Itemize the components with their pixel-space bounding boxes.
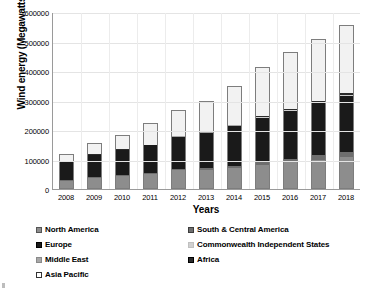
legend-label: Middle East: [45, 255, 88, 264]
gridline-vertical: [333, 13, 334, 189]
x-tick-label: 2017: [310, 193, 326, 202]
legend-item[interactable]: North America: [36, 222, 186, 237]
legend-swatch-icon: [188, 257, 194, 263]
legend-label: Asia Pacific: [45, 270, 89, 279]
stacked-bar[interactable]: [171, 110, 186, 189]
legend-item[interactable]: Europe: [36, 237, 186, 252]
legend-label: Europe: [45, 240, 72, 249]
bar-segment-north-america: [144, 174, 157, 188]
stacked-bar[interactable]: [339, 25, 354, 189]
gridline-vertical: [81, 13, 82, 189]
gridline-vertical: [137, 13, 138, 189]
gridline-horizontal: [53, 72, 360, 73]
axes-frame: [52, 13, 360, 190]
gridline-horizontal: [53, 161, 360, 162]
gridline-vertical: [305, 13, 306, 189]
legend-column-right: South & Central AmericaCommonwealth Inde…: [188, 222, 363, 267]
x-tick-label: 2015: [254, 193, 270, 202]
y-tick-label: 0: [5, 186, 49, 195]
bar-segment-asia-pacific: [256, 68, 269, 117]
x-tick-label: 2016: [282, 193, 298, 202]
legend-swatch-icon: [188, 242, 194, 248]
bar-segment-asia-pacific: [312, 40, 325, 101]
stacked-bar[interactable]: [199, 101, 214, 189]
gridline-vertical: [249, 13, 250, 189]
legend-item[interactable]: Middle East: [36, 252, 186, 267]
bar-segment-north-america: [228, 168, 241, 188]
bar-segment-europe: [200, 133, 213, 169]
bar-segment-europe: [312, 103, 325, 156]
bar-segment-asia-pacific: [116, 136, 129, 150]
gridline-horizontal: [53, 13, 360, 14]
bar-segment-north-america: [60, 181, 73, 188]
legend-swatch-icon: [36, 272, 42, 278]
bar-segment-north-america: [256, 165, 269, 188]
corner-artifact: [2, 283, 5, 288]
bar-segment-europe: [60, 161, 73, 180]
gridline-vertical: [193, 13, 194, 189]
legend-item[interactable]: Asia Pacific: [36, 267, 186, 282]
y-tick-label: 200000: [5, 127, 49, 136]
x-tick-label: 2009: [86, 193, 102, 202]
bar-segment-asia-pacific: [144, 124, 157, 145]
bar-segment-europe: [144, 145, 157, 173]
x-tick-label: 2010: [114, 193, 130, 202]
legend-label: Commonwealth Independent States: [197, 240, 329, 249]
legend-swatch-icon: [36, 257, 42, 263]
bar-segment-europe: [340, 96, 353, 152]
plot-area: Wind energy (Megawatts) 0100000200000300…: [0, 0, 368, 200]
legend-item[interactable]: South & Central America: [188, 222, 363, 237]
bar-segment-asia-pacific: [284, 53, 297, 108]
x-tick-label: 2014: [226, 193, 242, 202]
legend-column-left: North AmericaEuropeMiddle EastAsia Pacif…: [36, 222, 186, 282]
bar-segment-north-america: [88, 178, 101, 189]
y-tick-label: 100000: [5, 156, 49, 165]
x-tick-label: 2008: [58, 193, 74, 202]
bar-segment-asia-pacific: [340, 26, 353, 94]
legend-label: North America: [45, 225, 99, 234]
y-tick-label: 600000: [5, 9, 49, 18]
y-axis-tick-labels: 0100000200000300000400000500000600000: [5, 0, 49, 200]
bar-segment-asia-pacific: [88, 144, 101, 154]
x-axis-title: Years: [52, 204, 360, 215]
bar-segment-europe: [172, 137, 185, 169]
legend-label: South & Central America: [197, 225, 289, 234]
y-tick-label: 300000: [5, 97, 49, 106]
stacked-bar[interactable]: [255, 67, 270, 189]
legend-label: Africa: [197, 255, 219, 264]
bar-segment-north-america: [340, 157, 353, 188]
gridline-vertical: [277, 13, 278, 189]
bar-segment-asia-pacific: [200, 102, 213, 132]
stacked-bar[interactable]: [59, 154, 74, 189]
y-tick-label: 400000: [5, 68, 49, 77]
gridline-horizontal: [53, 102, 360, 103]
bar-segment-asia-pacific: [172, 111, 185, 136]
gridline-vertical: [165, 13, 166, 189]
gridline-vertical: [109, 13, 110, 189]
legend-swatch-icon: [36, 242, 42, 248]
bar-segment-europe: [284, 111, 297, 159]
legend-swatch-icon: [188, 227, 194, 233]
legend-item[interactable]: Africa: [188, 252, 363, 267]
legend-item[interactable]: Commonwealth Independent States: [188, 237, 363, 252]
bar-segment-north-america: [200, 170, 213, 188]
bar-segment-north-america: [284, 162, 297, 188]
stacked-bar[interactable]: [311, 39, 326, 189]
bar-segment-asia-pacific: [228, 87, 241, 124]
bar-segment-north-america: [172, 170, 185, 188]
bar-segment-europe: [88, 155, 101, 177]
wind-energy-stacked-bar-chart: Wind energy (Megawatts) 0100000200000300…: [0, 0, 368, 289]
y-tick-label: 500000: [5, 38, 49, 47]
chart-legend: North AmericaEuropeMiddle EastAsia Pacif…: [36, 222, 360, 286]
x-tick-label: 2011: [142, 193, 157, 202]
gridline-horizontal: [53, 131, 360, 132]
stacked-bar[interactable]: [87, 143, 102, 189]
bar-segment-north-america: [312, 160, 325, 188]
stacked-bar[interactable]: [115, 135, 130, 189]
gridline-horizontal: [53, 43, 360, 44]
x-tick-label: 2012: [170, 193, 186, 202]
bar-segment-north-america: [116, 176, 129, 188]
x-tick-label: 2018: [338, 193, 354, 202]
gridline-vertical: [221, 13, 222, 189]
stacked-bar[interactable]: [143, 123, 158, 189]
